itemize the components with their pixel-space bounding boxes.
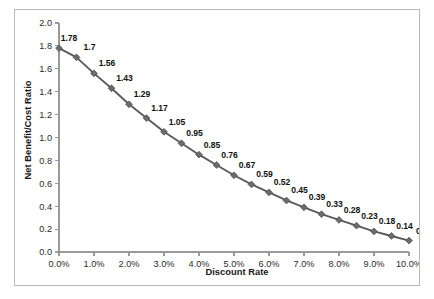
data-point-marker (266, 189, 273, 196)
data-point-label: 0.67 (239, 160, 256, 170)
y-axis-tick-label: 1.6 (39, 64, 52, 74)
data-point-label: 0.39 (309, 192, 326, 202)
y-axis-tick-label: 0.4 (39, 202, 52, 212)
data-point-label: 0.18 (379, 216, 396, 226)
data-point-marker (283, 197, 290, 204)
data-point-label: 0.95 (186, 128, 203, 138)
data-point-marker (353, 222, 360, 229)
y-axis-tick-label: 0.0 (39, 247, 52, 257)
data-point-marker (388, 233, 395, 240)
data-point-label: 1.78 (61, 33, 78, 43)
data-point-label: 0.45 (291, 185, 308, 195)
x-axis-tick-label: 3.0% (154, 259, 175, 269)
data-point-label: 1.17 (151, 103, 168, 113)
x-axis-tick-label: 7.0% (294, 259, 315, 269)
y-axis-tick-label: 0.2 (39, 224, 52, 234)
net-benefit-cost-ratio-line-chart: 0.00.20.40.60.81.01.21.41.61.82.0 0.0%1.… (15, 10, 419, 285)
x-axis-tick-label: 1.0% (84, 259, 105, 269)
data-point-marker (406, 237, 413, 244)
data-point-label: 0.28 (344, 205, 361, 215)
data-point-marker (248, 181, 255, 188)
x-axis-title: Discount Rate (205, 266, 268, 277)
data-point-labels: 1.781.71.561.431.291.171.050.950.850.760… (61, 33, 419, 235)
y-axis-tick-label: 0.6 (39, 179, 52, 189)
y-axis-tick-label: 2.0 (39, 18, 52, 28)
x-axis-tick-label: 8.0% (329, 259, 350, 269)
y-axis-tick-label: 1.0 (39, 133, 52, 143)
data-point-marker (336, 217, 343, 224)
data-point-label: 1.05 (169, 117, 186, 127)
x-axis-tick-label: 10.0% (396, 259, 419, 269)
data-point-label: 0.23 (361, 211, 378, 221)
data-point-label: 1.7 (84, 42, 96, 52)
data-point-label: 1.43 (116, 73, 133, 83)
x-axis-tick-label: 0.0% (49, 259, 70, 269)
data-point-marker (301, 204, 308, 211)
data-point-label: 0.14 (396, 221, 413, 231)
data-point-label: 1.29 (134, 89, 151, 99)
x-axis-tick-label: 2.0% (119, 259, 140, 269)
y-axis-title: Net Benefit/Cost Ratio (22, 80, 33, 179)
chart-container: 0.00.20.40.60.81.01.21.41.61.82.0 0.0%1.… (14, 9, 420, 286)
data-point-marker (318, 211, 325, 218)
data-point-label: 0.33 (326, 199, 343, 209)
y-axis-tick-label: 0.8 (39, 156, 52, 166)
y-axis: 0.00.20.40.60.81.01.21.41.61.82.0 (39, 18, 59, 257)
data-point-label: 0.59 (256, 169, 273, 179)
y-axis-tick-label: 1.4 (39, 87, 52, 97)
data-point-marker (371, 228, 378, 235)
x-axis-tick-label: 9.0% (364, 259, 385, 269)
data-point-label: 0.76 (221, 150, 238, 160)
data-point-label: 0.85 (204, 140, 221, 150)
data-point-label: 1.56 (99, 58, 116, 68)
data-point-label: 0.52 (274, 177, 291, 187)
y-axis-tick-label: 1.8 (39, 41, 52, 51)
y-axis-tick-label: 1.2 (39, 110, 52, 120)
data-point-label: 0.1 (416, 226, 419, 236)
